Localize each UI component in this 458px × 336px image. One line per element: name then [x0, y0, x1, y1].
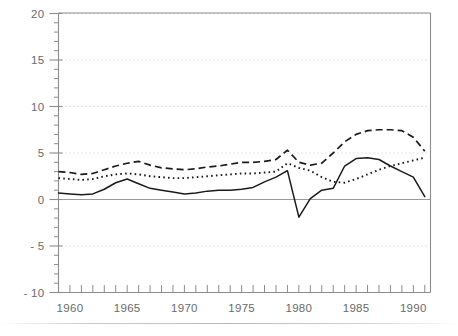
x-tick-label-1965: 1965	[114, 302, 141, 314]
series-dotted-series	[59, 158, 425, 183]
x-tick-label-1985: 1985	[343, 302, 370, 314]
y-tick-label--5: - 5	[30, 240, 44, 252]
data-series	[59, 130, 425, 217]
y-tick-label-10: 10	[31, 101, 44, 113]
x-tick-label-1970: 1970	[171, 302, 198, 314]
y-tick-label-20: 20	[31, 8, 44, 20]
x-tick-label-1980: 1980	[285, 302, 312, 314]
x-tick-label-1990: 1990	[400, 302, 427, 314]
line-chart: 20151050- 5- 101960196519701975198019851…	[0, 0, 458, 336]
y-tick-label--10: - 10	[23, 287, 44, 299]
y-tick-label-0: 0	[38, 194, 45, 206]
x-tick-label-1960: 1960	[57, 302, 84, 314]
chart-container: 20151050- 5- 101960196519701975198019851…	[0, 0, 458, 336]
axis-tick-labels: 20151050- 5- 101960196519701975198019851…	[23, 8, 426, 314]
y-tick-label-15: 15	[31, 54, 44, 66]
series-dashed-series	[59, 130, 425, 175]
y-tick-label-5: 5	[38, 147, 45, 159]
gridlines	[62, 14, 430, 247]
page-edge-rule	[0, 323, 458, 324]
x-tick-label-1975: 1975	[228, 302, 255, 314]
